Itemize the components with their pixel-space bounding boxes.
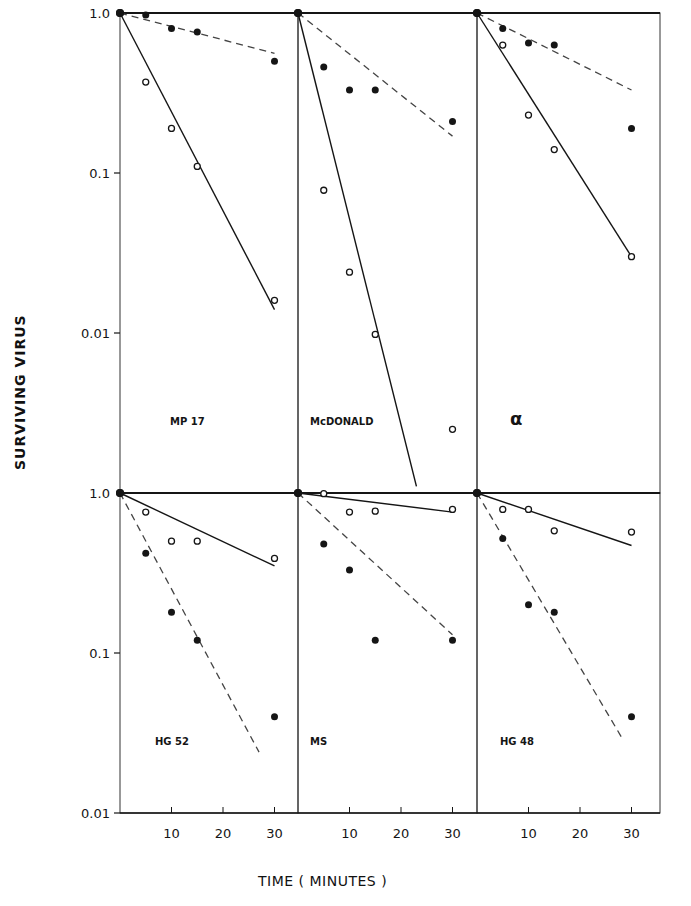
dashed-fit-line	[120, 493, 259, 752]
x-tick-label: 30	[266, 826, 283, 841]
open-data-point	[194, 163, 200, 169]
panel-label: α	[510, 408, 522, 429]
panel-label: MP 17	[170, 416, 205, 427]
filled-data-point	[168, 25, 175, 32]
open-data-point	[321, 187, 327, 193]
filled-data-point	[628, 125, 635, 132]
y-tick-label: 0.01	[81, 326, 110, 341]
open-data-point	[372, 508, 378, 514]
origin-point	[116, 9, 124, 17]
filled-data-point	[525, 39, 532, 46]
open-data-point	[551, 147, 557, 153]
x-tick-label: 20	[572, 826, 589, 841]
panel-frame	[477, 13, 660, 493]
open-data-point	[194, 538, 200, 544]
open-data-point	[143, 79, 149, 85]
filled-data-point	[168, 609, 175, 616]
dashed-fit-line	[477, 493, 621, 737]
filled-data-point	[194, 637, 201, 644]
filled-data-point	[499, 25, 506, 32]
filled-data-point	[551, 609, 558, 616]
x-tick-label: 20	[393, 826, 410, 841]
x-tick-label: 30	[623, 826, 640, 841]
solid-fit-line	[120, 13, 275, 310]
open-data-point	[450, 426, 456, 432]
chart-figure: 1.00.10.011.00.10.01102030102030102030 M…	[0, 0, 691, 906]
y-tick-label: 0.1	[89, 646, 110, 661]
filled-data-point	[346, 87, 353, 94]
open-data-point	[450, 506, 456, 512]
panel-frames	[120, 13, 660, 813]
open-data-point	[169, 125, 175, 131]
x-tick-label: 20	[215, 826, 232, 841]
filled-data-point	[346, 567, 353, 574]
solid-fit-line	[477, 13, 632, 257]
open-data-point	[500, 42, 506, 48]
panel-mcdonald: McDONALD	[294, 9, 456, 486]
open-data-point	[321, 491, 327, 497]
origin-point	[473, 9, 481, 17]
panel-label: McDONALD	[310, 416, 373, 427]
open-data-point	[526, 112, 532, 118]
x-tick-label: 10	[163, 826, 180, 841]
panel-hg-48: HG 48	[473, 489, 635, 747]
open-data-point	[629, 529, 635, 535]
open-data-point	[272, 297, 278, 303]
filled-data-point	[194, 29, 201, 36]
open-data-point	[500, 506, 506, 512]
y-tick-label: 1.0	[89, 486, 110, 501]
open-data-point	[347, 509, 353, 515]
filled-data-point	[551, 42, 558, 49]
open-data-point	[143, 509, 149, 515]
panel--: α	[473, 9, 635, 429]
panel-mp-17: MP 17	[116, 9, 278, 427]
filled-data-point	[372, 637, 379, 644]
dashed-fit-line	[298, 13, 453, 136]
open-data-point	[347, 269, 353, 275]
filled-data-point	[142, 550, 149, 557]
panel-hg-52: HG 52	[116, 489, 278, 752]
filled-data-point	[499, 535, 506, 542]
filled-data-point	[449, 637, 456, 644]
x-tick-label: 10	[520, 826, 537, 841]
panel-ms: MS	[294, 489, 456, 747]
filled-data-point	[372, 87, 379, 94]
panel-frame	[120, 493, 298, 813]
open-data-point	[629, 254, 635, 260]
plot-content: MP 17McDONALDαHG 52MSHG 48	[116, 9, 635, 752]
filled-data-point	[142, 12, 149, 19]
filled-data-point	[628, 713, 635, 720]
filled-data-point	[525, 601, 532, 608]
filled-data-point	[320, 541, 327, 548]
open-data-point	[551, 528, 557, 534]
panel-label: HG 48	[500, 736, 534, 747]
y-tick-label: 0.01	[81, 806, 110, 821]
x-axis-label: TIME ( MINUTES )	[258, 873, 387, 889]
y-axis-label: SURVIVING VIRUS	[12, 314, 28, 470]
dashed-fit-line	[477, 13, 632, 90]
open-data-point	[169, 538, 175, 544]
x-tick-label: 10	[341, 826, 358, 841]
origin-point	[294, 489, 302, 497]
panel-label: HG 52	[155, 736, 189, 747]
origin-point	[473, 489, 481, 497]
origin-point	[294, 9, 302, 17]
origin-point	[116, 489, 124, 497]
filled-data-point	[449, 118, 456, 125]
x-tick-label: 30	[444, 826, 461, 841]
filled-data-point	[271, 58, 278, 65]
filled-data-point	[320, 63, 327, 70]
open-data-point	[272, 555, 278, 561]
filled-data-point	[271, 713, 278, 720]
open-data-point	[372, 331, 378, 337]
y-tick-label: 0.1	[89, 166, 110, 181]
panel-label: MS	[310, 736, 327, 747]
y-tick-label: 1.0	[89, 6, 110, 21]
open-data-point	[526, 506, 532, 512]
